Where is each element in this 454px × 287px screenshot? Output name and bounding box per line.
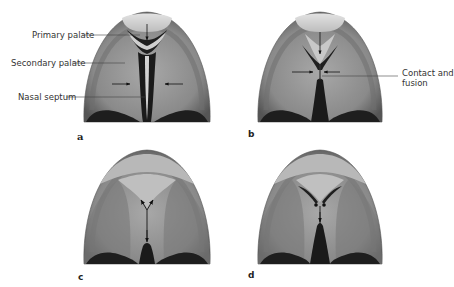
secondary-palate-label: Secondary palate (11, 58, 85, 68)
panel-d-palate (258, 150, 382, 264)
panel-b-palate (258, 12, 382, 122)
panel-letter-c: c (78, 272, 83, 282)
contact-fusion-label-line1: Contact and (402, 68, 454, 78)
panel-letter-b: b (248, 129, 254, 139)
contact-fusion-label-line2: fusion (402, 78, 428, 88)
panel-letter-d: d (248, 270, 254, 280)
panel-letter-a: a (77, 131, 83, 142)
panel-a-palate (84, 12, 210, 122)
nasal-septum-label: Nasal septum (18, 92, 76, 102)
panel-c-palate (84, 150, 210, 264)
primary-palate-label: Primary palate (32, 30, 94, 40)
